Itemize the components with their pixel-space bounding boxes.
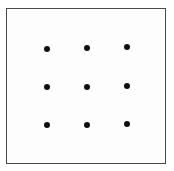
figure-canvas <box>0 0 174 171</box>
figure-border-box <box>6 8 166 164</box>
